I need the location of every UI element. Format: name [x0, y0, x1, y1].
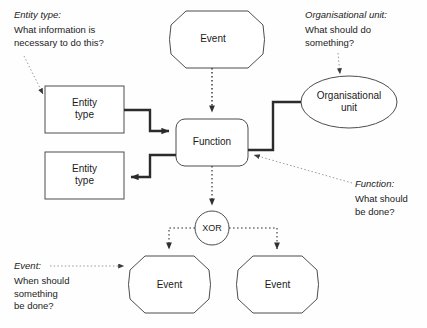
- leader-org-unit-note: [338, 53, 340, 74]
- edge-function-to-entity-bottom: [131, 155, 176, 177]
- node-event-right[interactable]: [237, 256, 319, 313]
- annotation-function: Function: What should be done?: [355, 178, 427, 218]
- annotation-org-unit-heading: Organisational unit:: [305, 9, 425, 22]
- annotation-function-body: What should be done?: [355, 193, 427, 218]
- annotation-event-body: When should something be done?: [14, 275, 119, 313]
- annotation-event-heading: Event:: [14, 260, 119, 273]
- node-xor-operator[interactable]: [195, 211, 229, 245]
- diagram-canvas: Event Entity type Entity type Function O…: [0, 0, 427, 328]
- annotation-org-unit: Organisational unit: What should do some…: [305, 9, 425, 49]
- node-org-unit[interactable]: [301, 76, 397, 128]
- edge-entity-top-to-function: [124, 110, 169, 131]
- edge-xor-to-event-left: [169, 228, 195, 249]
- annotation-entity-type: Entity type: What information is necessa…: [14, 9, 164, 49]
- node-entity-top[interactable]: [45, 86, 124, 133]
- leader-entity-type-note: [24, 56, 43, 94]
- node-function[interactable]: [176, 119, 248, 166]
- annotation-event: Event: When should something be done?: [14, 260, 119, 313]
- leader-function-note: [254, 155, 352, 183]
- edge-xor-to-event-right: [229, 228, 277, 249]
- annotation-function-heading: Function:: [355, 178, 427, 191]
- node-event-top[interactable]: [170, 11, 265, 68]
- annotation-entity-type-heading: Entity type:: [14, 9, 164, 22]
- node-entity-bottom[interactable]: [45, 152, 124, 199]
- node-event-left[interactable]: [129, 256, 211, 313]
- annotation-entity-type-body: What information is necessary to do this…: [14, 24, 164, 49]
- edge-org-unit-to-function: [248, 102, 301, 150]
- annotation-org-unit-body: What should do something?: [305, 24, 425, 49]
